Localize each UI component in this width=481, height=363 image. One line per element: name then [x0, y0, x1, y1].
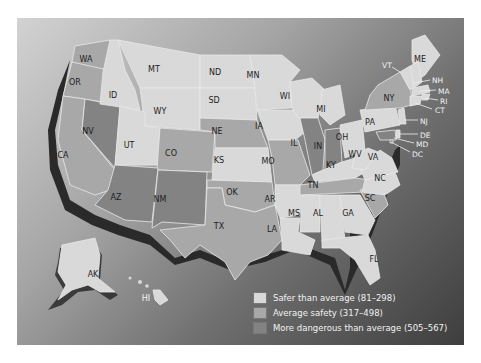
label-WV: WV — [348, 150, 362, 159]
label-NM: NM — [154, 195, 167, 204]
hi-island — [129, 277, 132, 280]
legend-item-dangerous: More dangerous than average (505–567) — [253, 321, 447, 335]
legend: Safer than average (81–298) Average safe… — [253, 291, 447, 336]
label-OH: OH — [336, 133, 348, 142]
leader-CT — [415, 103, 432, 109]
label-NY: NY — [384, 94, 395, 103]
label-KS: KS — [214, 156, 224, 165]
label-MI: MI — [316, 105, 325, 114]
label-AL: AL — [313, 209, 323, 218]
leader-MD — [394, 138, 414, 143]
label-AZ: AZ — [111, 193, 122, 202]
label-NH: NH — [432, 76, 443, 85]
label-NV: NV — [82, 127, 94, 136]
legend-label-dangerous: More dangerous than average (505–567) — [273, 323, 447, 333]
legend-swatch-safe — [253, 292, 267, 304]
label-UT: UT — [124, 141, 135, 150]
label-MT: MT — [148, 65, 160, 74]
label-SC: SC — [365, 194, 376, 203]
label-MS: MS — [288, 209, 300, 218]
label-FL: FL — [369, 255, 379, 264]
legend-item-average: Average safety (317–498) — [253, 306, 447, 320]
label-ME: ME — [414, 55, 426, 64]
state-HI[interactable] — [153, 290, 168, 305]
legend-label-safe: Safer than average (81–298) — [273, 293, 395, 303]
label-NC: NC — [374, 174, 386, 183]
label-PA: PA — [365, 118, 375, 127]
leader-DC — [391, 142, 410, 152]
state-WY[interactable] — [140, 88, 200, 130]
label-KY: KY — [326, 161, 336, 170]
label-AR: AR — [264, 195, 275, 204]
label-NE: NE — [211, 127, 222, 136]
state-MD[interactable] — [376, 130, 396, 140]
label-VA: VA — [368, 153, 379, 162]
label-GA: GA — [342, 209, 354, 218]
label-OR: OR — [69, 78, 81, 87]
label-NJ: NJ — [420, 117, 428, 126]
label-DC: DC — [412, 150, 423, 159]
label-MO: MO — [261, 157, 274, 166]
state-RI[interactable] — [422, 94, 430, 100]
legend-item-safe: Safer than average (81–298) — [253, 291, 447, 305]
hi-island — [145, 284, 149, 288]
label-MD: MD — [416, 140, 428, 149]
label-VT: VT — [382, 61, 392, 70]
label-WA: WA — [80, 55, 93, 64]
legend-swatch-average — [253, 307, 267, 319]
label-WI: WI — [280, 92, 290, 101]
label-RI: RI — [440, 97, 447, 106]
label-IL: IL — [291, 139, 298, 148]
label-AK: AK — [88, 270, 99, 279]
label-CA: CA — [57, 151, 69, 160]
hi-island — [138, 280, 142, 284]
label-HI: HI — [142, 294, 150, 303]
label-TN: TN — [307, 181, 319, 190]
label-ID: ID — [109, 91, 118, 100]
label-WY: WY — [154, 107, 167, 116]
label-LA: LA — [267, 225, 278, 234]
legend-label-average: Average safety (317–498) — [273, 308, 383, 318]
label-ND: ND — [209, 68, 221, 77]
label-MN: MN — [247, 71, 260, 80]
label-OK: OK — [226, 188, 238, 197]
label-DE: DE — [420, 131, 431, 140]
leader-VT — [392, 67, 400, 72]
label-IN: IN — [314, 142, 322, 151]
label-TX: TX — [213, 222, 225, 231]
label-IA: IA — [255, 122, 263, 131]
legend-swatch-dangerous — [253, 322, 267, 334]
label-CO: CO — [165, 149, 177, 158]
label-MA: MA — [438, 87, 450, 96]
label-SD: SD — [208, 96, 219, 105]
label-CT: CT — [435, 106, 445, 115]
